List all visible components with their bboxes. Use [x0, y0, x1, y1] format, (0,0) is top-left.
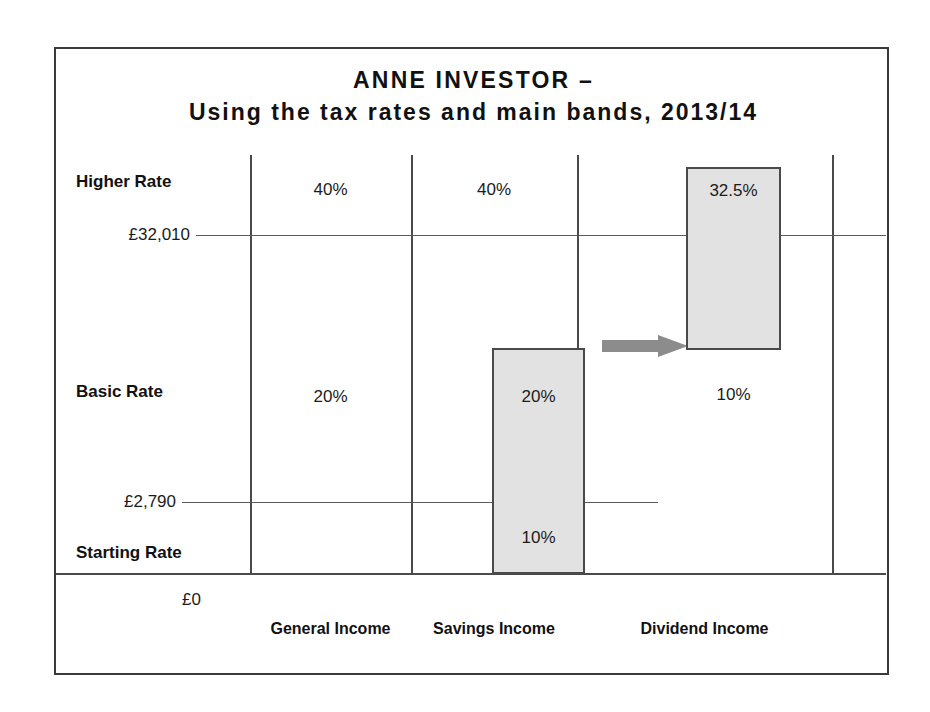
plot-area: Higher Rate Basic Rate Starting Rate £32…: [56, 49, 887, 673]
rate-savings-starting: 10%: [492, 528, 585, 548]
rate-general-basic: 20%: [250, 387, 411, 407]
column-separator-3: [832, 155, 834, 575]
rate-dividend-basic: 10%: [686, 385, 781, 405]
band-label-starting-rate: Starting Rate: [76, 543, 182, 563]
rate-dividend-higher: 32.5%: [686, 181, 781, 201]
gridline-baseline-zero: [56, 573, 886, 575]
screenshot-root: ANNE INVESTOR – Using the tax rates and …: [0, 0, 930, 712]
band-label-higher-rate: Higher Rate: [76, 172, 171, 192]
column-separator-1: [411, 155, 413, 575]
column-label-dividend-income: Dividend Income: [577, 620, 832, 638]
tick-label-0: £0: [56, 590, 201, 610]
chart-frame: ANNE INVESTOR – Using the tax rates and …: [54, 47, 889, 675]
rate-general-higher: 40%: [250, 180, 411, 200]
column-label-savings-income: Savings Income: [411, 620, 577, 638]
column-label-general-income: General Income: [250, 620, 411, 638]
tick-label-2790: £2,790: [56, 492, 176, 512]
gridline-32010: [196, 235, 886, 236]
band-label-basic-rate: Basic Rate: [76, 382, 163, 402]
axis-vertical-left: [250, 155, 252, 575]
tick-label-32010: £32,010: [56, 225, 190, 245]
gridline-2790: [182, 502, 658, 503]
transfer-arrow-icon: [602, 335, 688, 357]
rate-savings-higher: 40%: [411, 180, 577, 200]
rate-savings-basic: 20%: [492, 387, 585, 407]
